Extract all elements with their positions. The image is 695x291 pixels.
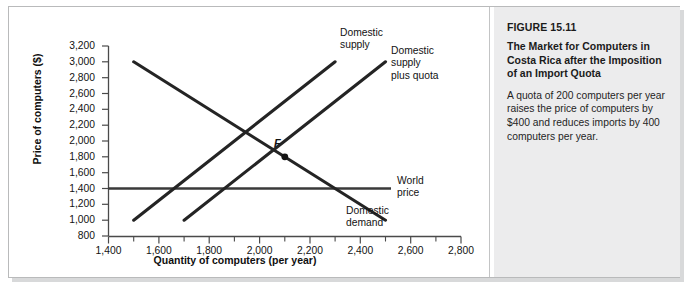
figure-caption: A quota of 200 computers per year raises… [507, 89, 667, 143]
curve-label-line: Domestic [391, 45, 434, 56]
y-axis-title: Price of computers ($) [31, 34, 43, 184]
curve-label-line: price [397, 187, 419, 198]
y-tick-label: 3,200 [41, 40, 95, 51]
curve-label-line: Domestic [340, 27, 383, 38]
y-tick-label: 2,000 [41, 135, 95, 146]
figure-root: 3,200 3,000 2,800 2,600 2,400 2,200 2,00… [0, 0, 695, 291]
chart-panel: 3,200 3,000 2,800 2,600 2,400 2,200 2,00… [9, 7, 487, 277]
curve-label-line: World [397, 175, 424, 186]
curve-label-world-price: World price [397, 175, 457, 200]
curve-label-line: supply [340, 39, 370, 50]
y-tick-label: 1,000 [41, 214, 95, 225]
y-tick-label: 1,600 [41, 167, 95, 178]
y-tick-label: 800 [41, 230, 95, 241]
panel-divider [489, 7, 490, 277]
y-tick-label: 2,400 [41, 103, 95, 114]
curve-label-domestic-demand: Domestic demand [346, 205, 426, 230]
series-line-domestic-supply [134, 62, 335, 220]
curve-label-line: plus quota [391, 70, 439, 81]
figure-title: The Market for Computers in Costa Rica a… [507, 40, 667, 81]
series-line-domestic-demand [134, 62, 386, 220]
y-tick-label: 2,800 [41, 72, 95, 83]
y-tick-label: 1,200 [41, 198, 95, 209]
y-tick-label: 1,400 [41, 183, 95, 194]
point-f-marker [281, 153, 288, 160]
x-tick-label: 2,800 [437, 245, 485, 256]
point-f-label: F [274, 137, 281, 149]
x-axis-title: Quantity of computers (per year) [75, 254, 395, 266]
curve-label-line: supply [391, 57, 421, 68]
figure-number: FIGURE 15.11 [507, 21, 667, 33]
series-line-supply-plus-quota [184, 62, 385, 220]
y-tick-label: 3,000 [41, 56, 95, 67]
curve-label-supply-plus-quota: Domestic supply plus quota [391, 45, 477, 82]
curve-label-line: Domestic [346, 205, 389, 216]
curve-label-line: demand [346, 217, 383, 228]
y-tick-label: 2,200 [41, 119, 95, 130]
y-tick-label: 2,600 [41, 88, 95, 99]
y-tick-label: 1,800 [41, 151, 95, 162]
figure-caption-panel: FIGURE 15.11 The Market for Computers in… [494, 7, 680, 277]
